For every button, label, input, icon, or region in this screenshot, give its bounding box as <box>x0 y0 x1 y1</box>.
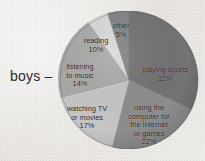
pie-chart-svg <box>58 11 200 149</box>
chart-screenshot: boys – playing spor <box>0 0 205 161</box>
pie-chart <box>58 11 200 149</box>
category-axis-label-boys: boys – <box>10 68 52 84</box>
